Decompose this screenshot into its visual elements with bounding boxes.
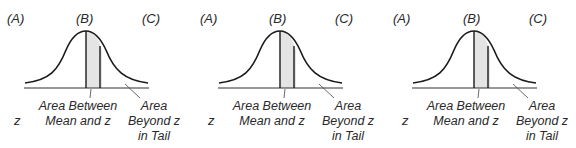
area-beyond-label: Area Beyond z in Tail bbox=[124, 99, 184, 144]
normal-curve-panel-1: (A) (B) (C) z Area Between Mean and z Ar… bbox=[0, 0, 190, 148]
area-beyond-label: Area Beyond z in Tail bbox=[318, 99, 378, 144]
leader-line-beyond bbox=[319, 84, 334, 98]
area-beyond-label: Area Beyond z in Tail bbox=[512, 99, 572, 144]
leader-line-between bbox=[90, 89, 91, 98]
area-between-label: Area Between Mean and z bbox=[232, 99, 312, 129]
leader-line-between bbox=[284, 89, 285, 98]
z-column-label: z bbox=[208, 113, 215, 128]
leader-line-beyond bbox=[513, 84, 528, 98]
normal-curve-panel-3: (A) (B) (C) z Area Between Mean and z Ar… bbox=[388, 0, 576, 148]
normal-curve-panel-2: (A) (B) (C) z Area Between Mean and z Ar… bbox=[194, 0, 384, 148]
area-between-label: Area Between Mean and z bbox=[38, 99, 118, 129]
leader-line-between bbox=[478, 89, 479, 98]
area-between-label: Area Between Mean and z bbox=[426, 99, 506, 129]
z-column-label: z bbox=[14, 113, 21, 128]
leader-line-beyond bbox=[125, 84, 140, 98]
z-column-label: z bbox=[402, 113, 409, 128]
